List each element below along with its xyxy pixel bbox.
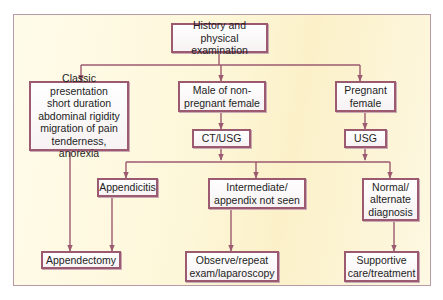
node-pregnant-female: Pregnant female [335,81,396,112]
node-appendectomy: Appendectomy [41,251,121,269]
node-history-physical-exam: History and physical examination [171,23,268,53]
node-ct-usg: CT/USG [192,129,251,148]
node-appendicitis: Appendicitis [97,178,158,197]
node-male-nonpregnant-female: Male of non- pregnant female [178,81,266,112]
node-supportive-care: Supportive care/treatment [344,251,419,282]
node-classic-presentation: Classic presentation short duration abdo… [29,81,129,151]
node-usg: USG [344,129,387,148]
node-normal-alternate-diagnosis: Normal/ alternate diagnosis [362,178,419,221]
node-observe-repeat-exam: Observe/repeat exam/laparoscopy [185,251,279,282]
node-intermediate-appendix-not-seen: Intermediate/ appendix not seen [208,178,306,209]
